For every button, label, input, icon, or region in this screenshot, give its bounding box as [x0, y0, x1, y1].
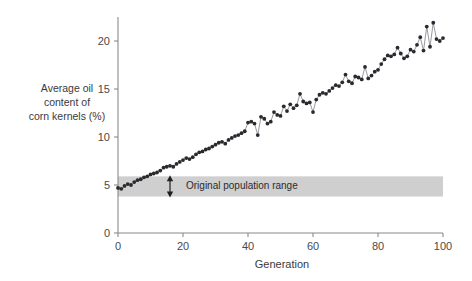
- data-point: [155, 171, 159, 175]
- data-point: [142, 175, 146, 179]
- data-point: [129, 183, 133, 187]
- data-point: [308, 101, 312, 105]
- data-point: [149, 173, 153, 177]
- data-point: [243, 129, 247, 133]
- data-point: [383, 57, 387, 61]
- data-point: [223, 142, 227, 146]
- chart-figure: Original population range 05101520 02040…: [0, 0, 472, 281]
- data-point: [184, 156, 188, 160]
- data-point: [119, 187, 123, 191]
- data-point: [415, 43, 419, 47]
- data-point: [136, 178, 140, 182]
- data-point: [298, 92, 302, 96]
- data-point: [253, 122, 257, 126]
- data-point: [123, 184, 127, 188]
- x-tick-label-60: 60: [307, 240, 319, 252]
- data-point: [422, 49, 426, 53]
- data-point: [282, 104, 286, 108]
- y-axis-title: Average oil content of corn kernels (%): [29, 82, 105, 122]
- x-tick-group: 020406080100: [115, 233, 452, 252]
- data-point: [295, 103, 299, 107]
- data-point: [301, 100, 305, 104]
- data-point: [236, 133, 240, 137]
- data-point: [240, 131, 244, 135]
- data-point: [266, 122, 270, 126]
- data-point: [370, 74, 374, 78]
- data-point: [152, 172, 156, 176]
- data-point: [412, 50, 416, 54]
- data-point: [386, 54, 390, 58]
- data-point: [220, 140, 224, 144]
- data-point: [402, 56, 406, 60]
- y-axis: 05101520: [98, 17, 118, 239]
- series-markers: [116, 21, 445, 191]
- data-point: [435, 37, 439, 41]
- data-point: [256, 133, 260, 137]
- data-point: [405, 54, 409, 58]
- data-point: [392, 53, 396, 57]
- y-axis-title-line-1: Average oil: [41, 82, 93, 94]
- data-point: [158, 169, 162, 173]
- y-axis-title-line-3: corn kernels (%): [29, 110, 105, 122]
- data-point: [188, 157, 192, 161]
- data-point: [360, 78, 364, 82]
- oil-content-line-chart: Original population range 05101520 02040…: [0, 0, 472, 281]
- data-point: [201, 150, 205, 154]
- data-point: [259, 115, 263, 119]
- data-point: [197, 150, 201, 154]
- data-point: [269, 120, 273, 124]
- data-point: [305, 102, 309, 106]
- y-tick-label-15: 15: [98, 83, 110, 95]
- band-label: Original population range: [186, 180, 298, 191]
- data-point: [379, 62, 383, 66]
- x-tick-label-40: 40: [242, 240, 254, 252]
- data-point: [210, 145, 214, 149]
- data-series-group: [116, 21, 445, 191]
- data-point: [171, 165, 175, 169]
- x-axis: 020406080100: [115, 233, 452, 252]
- data-point: [275, 113, 279, 117]
- data-point: [249, 120, 253, 124]
- x-tick-label-0: 0: [115, 240, 121, 252]
- data-point: [178, 160, 182, 164]
- x-tick-label-20: 20: [177, 240, 189, 252]
- data-point: [324, 92, 328, 96]
- data-point: [337, 84, 341, 88]
- x-tick-label-100: 100: [434, 240, 452, 252]
- data-point: [314, 98, 318, 102]
- series-line: [118, 23, 443, 189]
- y-tick-label-20: 20: [98, 35, 110, 47]
- data-point: [233, 134, 237, 138]
- data-point: [207, 147, 211, 151]
- data-point: [441, 36, 445, 40]
- data-point: [194, 152, 198, 156]
- data-point: [145, 174, 149, 178]
- data-point: [116, 186, 120, 190]
- data-point: [217, 141, 221, 145]
- data-point: [428, 45, 432, 49]
- data-point: [366, 77, 370, 81]
- y-tick-label-5: 5: [104, 179, 110, 191]
- data-point: [350, 81, 354, 85]
- data-point: [246, 121, 250, 125]
- data-point: [165, 165, 169, 169]
- data-point: [168, 164, 172, 168]
- data-point: [340, 80, 344, 84]
- data-point: [272, 110, 276, 114]
- data-point: [331, 86, 335, 90]
- x-tick-label-80: 80: [372, 240, 384, 252]
- y-tick-label-10: 10: [98, 131, 110, 143]
- data-point: [285, 109, 289, 113]
- data-point: [227, 138, 231, 142]
- y-axis-title-line-2: content of: [44, 96, 90, 108]
- data-point: [376, 68, 380, 72]
- data-point: [181, 158, 185, 162]
- data-point: [126, 182, 130, 186]
- data-point: [132, 180, 136, 184]
- data-point: [344, 73, 348, 77]
- data-point: [334, 83, 338, 87]
- data-point: [431, 21, 435, 25]
- data-point: [288, 102, 292, 106]
- data-point: [347, 79, 351, 83]
- data-point: [353, 75, 357, 79]
